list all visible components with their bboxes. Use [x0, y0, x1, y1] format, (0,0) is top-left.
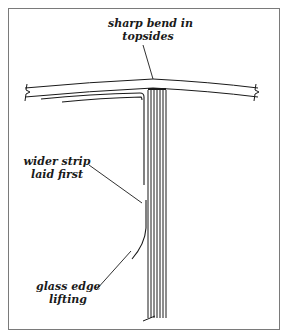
label-line: wider strip [22, 155, 92, 168]
label-line: topsides [108, 30, 188, 43]
label-line: lifting [36, 293, 100, 306]
label-glass-edge: glass edge lifting [36, 280, 100, 306]
label-line: sharp bend in [108, 17, 188, 30]
label-wider-strip: wider strip laid first [22, 155, 92, 181]
label-line: laid first [22, 168, 92, 181]
label-sharp-bend: sharp bend in topsides [108, 17, 188, 43]
label-line: glass edge [36, 280, 100, 293]
